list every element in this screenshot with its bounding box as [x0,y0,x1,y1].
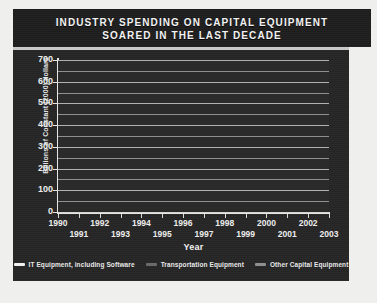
gridline [58,169,329,170]
y-tick-mark [53,60,58,61]
y-tick-label: 500 [19,98,53,107]
gridline [58,179,329,180]
legend-label-transportation-equipment: Transportation Equipment [161,261,244,268]
gridline [58,93,329,94]
y-tick-mark [53,190,58,191]
y-tick-label: 0 [19,207,53,216]
x-tick-label: 2002 [299,219,318,228]
gridline [58,114,329,115]
y-tick-label: 700 [19,55,53,64]
x-tick-label: 1995 [153,230,172,239]
x-tick-mark [162,214,163,218]
chart-legend: IT Equipment, including Software Transpo… [13,261,349,268]
plot-area [58,60,329,212]
y-tick-label: 600 [19,77,53,86]
chart-title-line-1: Industry Spending on Capital Equipment [56,16,329,29]
legend-label-it-equipment: IT Equipment, including Software [29,261,135,268]
x-tick-mark [121,214,122,218]
legend-swatch-other-capital-equipment [255,263,266,266]
legend-swatch-transportation-equipment [146,263,157,266]
x-tick-label: 1999 [236,230,255,239]
x-tick-label: 2003 [320,230,339,239]
gridline [58,60,329,61]
x-tick-label: 1990 [49,219,68,228]
gridline [58,71,329,72]
x-tick-label: 1993 [111,230,130,239]
gridline [58,82,329,83]
x-tick-mark [79,214,80,218]
x-tick-label: 1996 [174,219,193,228]
y-tick-label: 100 [19,185,53,194]
x-tick-mark [329,214,330,218]
chart-body: Billions of Constant (2000) dollars 7006… [13,50,349,281]
y-tick-mark [53,147,58,148]
gridline [58,147,329,148]
gridline [58,190,329,191]
y-tick-label: 200 [19,164,53,173]
chart-title-line-2: Soared in the Last Decade [102,29,282,42]
x-axis-title: Year [58,242,329,252]
page-background: Industry Spending on Capital Equipment S… [0,0,377,303]
gridline [58,125,329,126]
x-tick-label: 1994 [132,219,151,228]
y-tick-mark [53,212,58,213]
gridline [58,158,329,159]
x-tick-label: 1998 [215,219,234,228]
y-tick-label: 300 [19,142,53,151]
y-tick-mark [53,125,58,126]
x-tick-label: 1997 [194,230,213,239]
x-tick-mark [204,214,205,218]
gridline [58,212,329,213]
chart-title-band: Industry Spending on Capital Equipment S… [13,9,371,47]
x-tick-label: 1991 [69,230,88,239]
gridline [58,136,329,137]
gridline [58,201,329,202]
x-tick-label: 2001 [278,230,297,239]
x-tick-label: 2000 [257,219,276,228]
gridline [58,103,329,104]
y-tick-label: 400 [19,120,53,129]
legend-label-other-capital-equipment: Other Capital Equipment [270,261,349,268]
y-tick-mark [53,169,58,170]
chart-figure: Industry Spending on Capital Equipment S… [13,9,349,281]
y-tick-mark [53,103,58,104]
legend-item-it-equipment[interactable]: IT Equipment, including Software [14,261,135,268]
legend-item-other-capital-equipment[interactable]: Other Capital Equipment [255,261,349,268]
legend-swatch-it-equipment [14,263,25,266]
x-tick-mark [287,214,288,218]
y-axis-ticks: 7006005004003002001000 [13,50,53,225]
y-tick-mark [53,82,58,83]
x-tick-mark [246,214,247,218]
legend-item-transportation-equipment[interactable]: Transportation Equipment [146,261,244,268]
x-tick-label: 1992 [90,219,109,228]
